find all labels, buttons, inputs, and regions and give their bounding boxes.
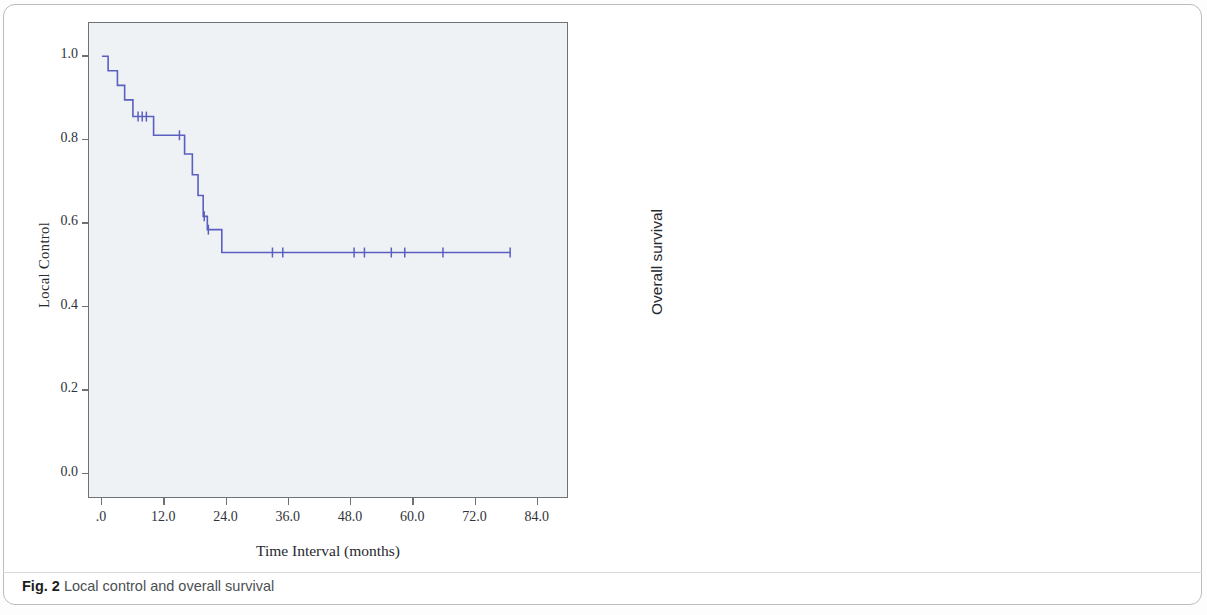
y-axis-title-overall-survival: Overall survival <box>648 209 666 315</box>
y-axis-title-local-control: Local Control <box>36 222 53 308</box>
chart-overall-survival: 0.00.20.40.60.81.0.012.024.036.048.060.0… <box>604 0 1207 570</box>
figure-caption: Fig. 2 Local control and overall surviva… <box>22 578 1022 594</box>
x-tick-mark <box>101 498 102 505</box>
y-tick-label: 0.2 <box>34 380 78 396</box>
figure-caption-text: Local control and overall survival <box>64 578 274 594</box>
y-tick-mark <box>82 222 88 223</box>
chart-local-control: 0.00.20.40.60.81.0.012.024.036.048.060.0… <box>0 0 604 570</box>
x-tick-label: 60.0 <box>382 509 442 525</box>
x-tick-label: 72.0 <box>445 509 505 525</box>
figure-caption-label: Fig. 2 <box>22 578 60 594</box>
y-tick-label: 1.0 <box>34 46 78 62</box>
y-tick-mark <box>82 55 88 56</box>
x-tick-mark <box>288 498 289 505</box>
caption-divider <box>3 572 1202 573</box>
y-tick-mark <box>82 139 88 140</box>
x-tick-label: 84.0 <box>507 509 567 525</box>
y-tick-label: 0.8 <box>34 130 78 146</box>
y-tick-mark <box>82 306 88 307</box>
kaplan-meier-curve-local-control <box>89 23 567 497</box>
x-tick-mark <box>412 498 413 505</box>
x-axis-title-local-control: Time Interval (months) <box>88 542 568 560</box>
x-tick-label: 12.0 <box>133 509 193 525</box>
y-tick-mark <box>82 389 88 390</box>
x-tick-label: 48.0 <box>320 509 380 525</box>
x-tick-mark <box>350 498 351 505</box>
x-tick-label: 24.0 <box>196 509 256 525</box>
x-tick-mark <box>537 498 538 505</box>
x-tick-label: .0 <box>71 509 131 525</box>
figure-page: 0.00.20.40.60.81.0.012.024.036.048.060.0… <box>0 0 1207 615</box>
x-tick-mark <box>163 498 164 505</box>
plot-area-local-control <box>88 22 568 498</box>
x-tick-mark <box>226 498 227 505</box>
y-tick-label: 0.0 <box>34 464 78 480</box>
x-tick-label: 36.0 <box>258 509 318 525</box>
x-tick-mark <box>475 498 476 505</box>
y-tick-mark <box>82 473 88 474</box>
